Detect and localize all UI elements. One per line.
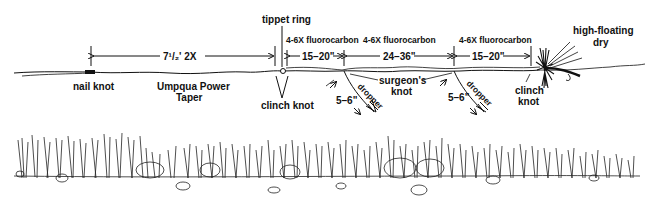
surgeons-knot-line2: knot	[391, 86, 413, 97]
clinch-knot-1-label: clinch knot	[261, 100, 314, 111]
taper-label-line1: Umpqua Power	[157, 81, 230, 92]
fluoro-3-length: 15–20"	[472, 51, 505, 62]
streambed-grass	[14, 133, 640, 195]
fluoro-2-length: 24–36"	[383, 51, 416, 62]
leader-length-label: 7¹/₂' 2X	[163, 51, 197, 62]
fluoro-3-label: 4-6X fluorocarbon	[459, 35, 532, 45]
clinch-knot-2-line2: knot	[518, 96, 540, 107]
dry-fly-label-line2: dry	[593, 37, 609, 48]
fly-rig-diagram: 7¹/₂' 2X tippet ring 4-6X fluorocarbon 1…	[0, 0, 654, 204]
nail-knot-label: nail knot	[73, 81, 115, 92]
fluoro-2-label: 4-6X fluorocarbon	[363, 35, 436, 45]
dropper-2-length: 5–6"	[448, 92, 470, 103]
dry-fly-label-line1: high-floating	[573, 25, 634, 36]
nail-knot-icon	[85, 70, 95, 74]
taper-label-line2: Taper	[176, 92, 203, 103]
fluoro-1-label: 4-6X fluorocarbon	[286, 35, 359, 45]
surgeons-knot-line1: surgeon's	[379, 75, 427, 86]
tippet-ring-icon	[281, 69, 286, 74]
dry-fly-icon	[536, 42, 582, 88]
clinch-knot-2-line1: clinch	[515, 85, 544, 96]
fluoro-1-length: 15–20"	[302, 51, 335, 62]
dropper-1-length: 5–6"	[336, 95, 358, 106]
tippet-ring-label: tippet ring	[262, 14, 311, 25]
